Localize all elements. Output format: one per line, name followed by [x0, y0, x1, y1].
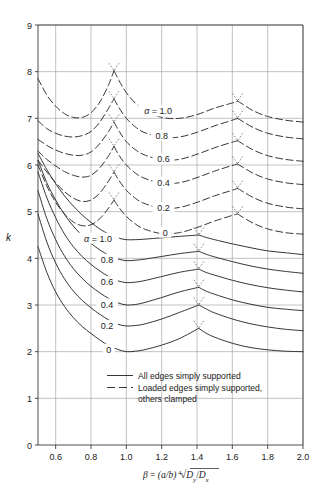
cusp-continuation-right [238, 132, 244, 140]
cusp-continuation-left [108, 191, 114, 199]
x-tick-label: 1.8 [261, 452, 274, 462]
curve-dashed-alpha-1.0 [38, 71, 114, 118]
curve-dashed-alpha-0.6 [114, 122, 238, 160]
cusp-continuation-right [199, 226, 205, 234]
y-tick-label: 0 [27, 441, 32, 451]
cusp-continuation-right [238, 155, 244, 163]
curve-solid-alpha-0.2 [199, 305, 303, 331]
cusp-continuation-right [114, 62, 120, 70]
curve-label: α = 1.0 [144, 106, 172, 116]
y-tick-label: 5 [27, 207, 32, 217]
legend-label-dashed-cont: others clamped [138, 394, 197, 404]
y-tick-label: 6 [27, 161, 32, 171]
chart-canvas: 01234567890.60.81.01.21.41.61.82.0α = 1.… [0, 0, 325, 490]
cusp-continuation-left [193, 242, 199, 250]
curve-label: 0.2 [157, 203, 170, 213]
curve-label: 0.2 [101, 321, 114, 331]
cusp-continuation-right [199, 319, 205, 327]
curve-solid-alpha-0 [38, 247, 199, 352]
cusp-continuation-left [108, 137, 114, 145]
curve-solid-alpha-0 [199, 328, 303, 351]
cusp-continuation-right [114, 137, 120, 145]
x-tick-label: 0.6 [49, 452, 62, 462]
curve-dashed-alpha-0.2 [238, 188, 303, 209]
cusp-continuation-right [114, 90, 120, 98]
cusp-continuation-left [193, 260, 199, 268]
legend-label-dashed: Loaded edges simply supported, [138, 383, 262, 393]
curve-solid-alpha-1.0 [199, 235, 303, 255]
curve-dashed-alpha-0 [238, 214, 303, 234]
curve-solid-alpha-0.8 [38, 160, 199, 260]
y-tick-label: 7 [27, 114, 32, 124]
cusp-continuation-right [199, 296, 205, 304]
curve-solid-alpha-0.6 [38, 172, 199, 283]
cusp-continuation-left [108, 113, 114, 121]
x-tick-label: 1.2 [155, 452, 168, 462]
curve-dashed-alpha-0.6 [38, 122, 114, 155]
y-tick-label: 2 [27, 347, 32, 357]
legend-label-solid: All edges simply supported [138, 371, 241, 381]
cusp-continuation-left [108, 90, 114, 98]
curve-dashed-alpha-0.6 [238, 141, 303, 162]
x-axis-label: β = (a/b)4√Dy/Dx [142, 468, 209, 483]
curve-dashed-alpha-0.4 [238, 164, 303, 185]
curve-label: 0 [106, 345, 111, 355]
y-tick-label: 8 [27, 67, 32, 77]
x-tick-label: 1.6 [226, 452, 239, 462]
curve-solid-alpha-0.6 [199, 269, 303, 292]
y-tick-label: 4 [27, 254, 32, 264]
cusp-continuation-left [108, 163, 114, 171]
y-tick-label: 1 [27, 394, 32, 404]
curve-label: 0.8 [101, 255, 114, 265]
cusp-continuation-right [238, 109, 244, 117]
cusp-continuation-left [193, 319, 199, 327]
curve-label: 0.6 [157, 154, 170, 164]
cusp-continuation-left [108, 62, 114, 70]
cusp-continuation-right [114, 191, 120, 199]
curve-dashed-alpha-1.0 [238, 101, 303, 122]
curve-dashed-alpha-0.4 [38, 146, 114, 177]
x-tick-label: 2.0 [297, 452, 310, 462]
cusp-continuation-right [238, 179, 244, 187]
buckling-coefficient-chart: k 01234567890.60.81.01.21.41.61.82.0α = … [0, 0, 325, 490]
curve-dashed-alpha-0 [114, 200, 238, 234]
cusp-continuation-right [199, 278, 205, 286]
curve-dashed-alpha-0.8 [238, 118, 303, 139]
cusp-continuation-left [193, 278, 199, 286]
cusp-continuation-right [199, 260, 205, 268]
curve-label: 0.6 [101, 277, 114, 287]
cusp-continuation-right [199, 242, 205, 250]
curve-label: 0.4 [101, 300, 114, 310]
y-tick-label: 3 [27, 301, 32, 311]
curve-label: 0.4 [157, 178, 170, 188]
curve-solid-alpha-0.8 [199, 251, 303, 273]
cusp-continuation-right [238, 92, 244, 100]
x-tick-label: 1.4 [191, 452, 204, 462]
cusp-continuation-right [114, 163, 120, 171]
curve-dashed-alpha-0.2 [114, 172, 238, 209]
cusp-continuation-right [114, 113, 120, 121]
curve-solid-alpha-1.0 [38, 153, 199, 239]
curve-dashed-alpha-0.2 [38, 160, 114, 201]
y-tick-label: 9 [27, 21, 32, 31]
curve-label: 0 [163, 228, 168, 238]
curve-label: α = 1.0 [84, 234, 112, 244]
curve-label: 0.8 [155, 131, 168, 141]
x-tick-label: 0.8 [85, 452, 98, 462]
x-tick-label: 1.0 [120, 452, 133, 462]
cusp-continuation-left [193, 296, 199, 304]
